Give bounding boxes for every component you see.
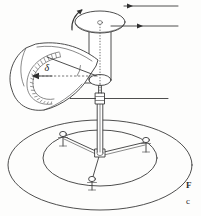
leader-arrow-upper <box>124 3 178 8</box>
tripod-leg-right <box>100 142 146 153</box>
tripod-leg-left <box>63 136 100 153</box>
angle-label-delta: δ <box>45 62 50 73</box>
shaft-collar <box>70 83 168 104</box>
technical-diagram: δ <box>0 0 201 216</box>
tripod-legs <box>59 131 151 190</box>
caption-line-2: c <box>186 196 190 206</box>
tripod-foot-front <box>88 176 97 190</box>
figure-root: δ F c <box>0 0 201 216</box>
vertical-shaft <box>97 104 103 152</box>
tripod-leg-right-edge <box>100 145 145 156</box>
caption-line-1: F <box>186 180 192 190</box>
tripod-foot-left <box>59 131 68 146</box>
leader-arrow-upper-head <box>127 3 133 8</box>
leader-arrow-lower-head <box>137 23 143 28</box>
tripod-foot-right <box>142 137 151 152</box>
